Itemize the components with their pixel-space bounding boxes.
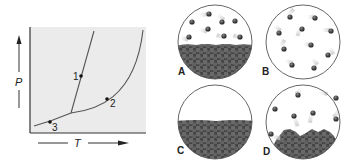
point-2-marker <box>105 97 109 101</box>
temperature-arrow: T <box>38 137 129 149</box>
panel-c: C <box>176 85 256 162</box>
point-1-label: 1 <box>73 71 79 82</box>
arrow-up-icon <box>17 35 22 44</box>
plot-background <box>30 27 146 133</box>
y-axis-label: P <box>15 76 23 88</box>
panel-a: A <box>176 5 256 82</box>
panel-a-label: A <box>178 66 185 77</box>
liquid-region <box>176 44 256 82</box>
panel-d: D <box>263 85 342 162</box>
panel-b-label: B <box>262 66 269 77</box>
gas-molecules <box>273 8 335 71</box>
point-1-marker <box>79 74 83 78</box>
liquid-region <box>176 120 256 162</box>
container-outline <box>266 5 340 79</box>
point-2-label: 2 <box>110 98 116 109</box>
phase-diagram: 1 2 3 P T <box>15 27 146 149</box>
solid-region <box>266 129 340 162</box>
x-axis-label: T <box>74 137 82 149</box>
panel-d-label: D <box>263 146 270 157</box>
figure: 1 2 3 P T <box>0 0 350 164</box>
panel-c-label: C <box>177 145 184 156</box>
vapor-molecules <box>268 87 341 140</box>
pressure-arrow: P <box>15 35 23 108</box>
point-3-label: 3 <box>52 122 58 133</box>
arrow-right-icon <box>118 141 129 146</box>
panel-b: B <box>262 5 340 79</box>
